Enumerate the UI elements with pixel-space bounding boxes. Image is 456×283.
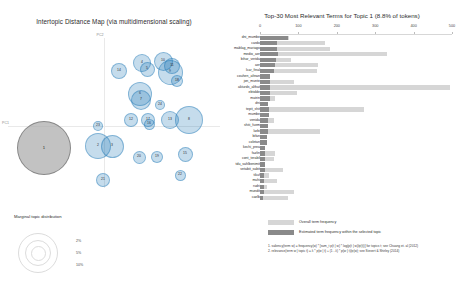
bar-wrapper [260, 80, 452, 84]
bar-topic-frequency [260, 80, 270, 84]
bar-topic-frequency [260, 140, 267, 144]
swatch-topic-frequency [268, 230, 294, 235]
bar-wrapper [260, 140, 452, 144]
bar-topic-frequency [260, 69, 274, 73]
bar-topic-frequency [260, 96, 270, 100]
bar-topic-frequency [260, 157, 265, 161]
bar-overall-frequency [260, 196, 288, 200]
bar-wrapper [260, 91, 452, 95]
bar-topic-frequency [260, 102, 268, 106]
bar-topic-frequency [260, 91, 270, 95]
legend-label-topic: Estimated term frequency within the sele… [299, 230, 381, 234]
legend-row-topic: Estimated term frequency within the sele… [268, 228, 456, 236]
topic-bubble-label: 24 [158, 103, 162, 106]
topic-bubble-label: 21 [101, 178, 105, 181]
bar-topic-frequency [260, 107, 269, 111]
bar-wrapper [260, 146, 452, 150]
pyldavis-visualization: Intertopic Distance Map (via multidimens… [0, 0, 456, 283]
legend-size-circles [18, 225, 70, 273]
bar-overall-frequency [260, 107, 364, 111]
topic-bubble-5[interactable]: 5 [140, 62, 155, 77]
topic-bubble-label: 23 [96, 124, 100, 127]
bar-topic-frequency [260, 74, 270, 78]
bar-wrapper [260, 107, 452, 111]
topic-bubble-label: 7 [140, 98, 142, 101]
bar-topic-frequency [260, 85, 270, 89]
bar-overall-frequency [260, 85, 450, 89]
bar-topic-frequency [260, 168, 265, 172]
bar-topic-frequency [260, 185, 264, 189]
topic-bubble-19[interactable]: 19 [151, 151, 163, 163]
bar-wrapper [260, 129, 452, 133]
bar-wrapper [260, 151, 452, 155]
axis-vertical [104, 38, 105, 188]
legend-title: Marginal topic distribution [14, 214, 124, 219]
x-tick-0: 0 [259, 24, 261, 28]
footnotes: 1. saliency(term w) = frequency(w) * [su… [268, 244, 456, 254]
topic-bubble-label: 3 [111, 144, 113, 147]
bar-topic-frequency [260, 118, 268, 122]
bar-wrapper [260, 135, 452, 139]
topic-bubble-20[interactable]: 20 [133, 151, 146, 164]
bar-wrapper [260, 47, 452, 51]
bar-topic-frequency [260, 129, 268, 133]
legend-circle-2pct [31, 246, 46, 261]
legend-label-2pct: 2% [76, 239, 81, 243]
bar-wrapper [260, 102, 452, 106]
bar-wrapper [260, 168, 452, 172]
x-tick-line-500 [452, 32, 453, 34]
bar-wrapper [260, 52, 452, 56]
legend-label-10pct: 10% [76, 263, 83, 267]
footnote-relevance: 2. relevance(term w | topic t) = λ * p(w… [268, 249, 456, 254]
swatch-overall-frequency [268, 220, 294, 225]
topic-bubble-1[interactable]: 1 [17, 121, 71, 175]
topic-bubble-23[interactable]: 23 [93, 121, 103, 131]
bar-topic-frequency [260, 113, 269, 117]
bar-chart-legend: Overall term frequency Estimated term fr… [268, 218, 456, 238]
bar-wrapper [260, 69, 452, 73]
topic-bubble-12[interactable]: 12 [124, 113, 138, 127]
bar-topic-frequency [260, 162, 265, 166]
bar-topic-frequency [260, 151, 265, 155]
bar-topic-frequency [260, 196, 263, 200]
bar-topic-frequency [260, 173, 264, 177]
bar-topic-frequency [260, 135, 267, 139]
x-axis: 0100200300400500 [228, 24, 456, 33]
bar-wrapper [260, 179, 452, 183]
bar-overall-frequency [260, 52, 387, 56]
bar-wrapper [260, 173, 452, 177]
bar-wrapper [260, 74, 452, 78]
top-terms-panel: Top-30 Most Relevant Terms for Topic 1 (… [228, 0, 456, 283]
topic-bubble-label: 14 [117, 69, 121, 72]
topic-bubble-label: 17 [146, 118, 150, 121]
topic-bubble-21[interactable]: 21 [96, 173, 110, 187]
topic-bubble-24[interactable]: 24 [155, 100, 165, 110]
bar-topic-frequency [260, 41, 277, 45]
topic-bubble-label: 1 [43, 146, 45, 150]
bar-topic-frequency [260, 63, 275, 67]
bar-topic-frequency [260, 36, 288, 40]
topic-bubble-3[interactable]: 3 [101, 135, 124, 158]
legend-label-overall: Overall term frequency [299, 220, 336, 224]
topic-bubble-7[interactable]: 7 [131, 90, 151, 110]
bar-topic-frequency [260, 190, 264, 194]
term-label[interactable]: caelb [170, 195, 260, 201]
topic-bubble-17[interactable]: 17 [141, 113, 155, 127]
bar-row[interactable]: caelb [228, 195, 456, 201]
topic-bubble-label: 20 [137, 155, 141, 158]
bar-wrapper [260, 96, 452, 100]
topic-bubble-label: 2 [97, 144, 99, 147]
x-tick-300: 300 [372, 24, 378, 28]
bar-wrapper [260, 196, 452, 200]
bar-chart-title: Top-30 Most Relevant Terms for Topic 1 (… [228, 12, 456, 19]
bar-wrapper [260, 58, 452, 62]
topic-bubble-label: 19 [155, 155, 159, 158]
bar-wrapper [260, 118, 452, 122]
x-tick-400: 400 [410, 24, 416, 28]
bar-topic-frequency [260, 124, 268, 128]
bar-wrapper [260, 185, 452, 189]
bar-wrapper [260, 63, 452, 67]
bar-chart: 0100200300400500 dni_mumbecardomablag_ma… [228, 24, 456, 224]
legend-row-overall: Overall term frequency [268, 218, 456, 226]
topic-bubble-14[interactable]: 14 [111, 63, 127, 79]
